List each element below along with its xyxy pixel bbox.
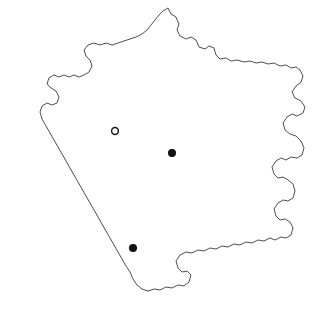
record-filled-circle-2 — [130, 245, 137, 252]
distribution-atlas-map — [0, 0, 324, 324]
map-canvas — [0, 0, 324, 324]
record-open-circle — [112, 128, 119, 135]
record-filled-circle-1 — [169, 150, 176, 157]
